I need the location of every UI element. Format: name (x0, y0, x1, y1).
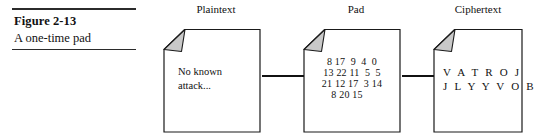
node-ciphertext-line-2: J L Y Y V O B (443, 80, 536, 94)
one-time-pad-diagram: Plaintext No known attack... Pad 8 17 9 … (0, 0, 539, 140)
node-pad-line-3: 21 12 17 3 14 (308, 78, 396, 90)
node-plaintext-line-2: attack... (178, 79, 211, 92)
node-pad-line-2: 13 22 11 5 5 (308, 67, 396, 79)
node-pad-label: Pad (298, 3, 414, 16)
document-page-icon (158, 20, 274, 138)
node-ciphertext-line-1: V A T R O J (443, 66, 521, 80)
node-pad-line-1: 8 17 9 4 0 (308, 56, 396, 68)
node-plaintext-line-1: No known (178, 65, 222, 78)
node-ciphertext: Ciphertext V A T R O J J L Y Y V O B (428, 3, 539, 135)
node-ciphertext-label: Ciphertext (428, 3, 528, 16)
node-pad-line-4: 8 20 15 (308, 89, 386, 101)
node-pad: Pad 8 17 9 4 0 13 22 11 5 5 21 12 17 3 1… (298, 3, 414, 135)
node-plaintext-label: Plaintext (158, 3, 274, 16)
node-plaintext: Plaintext No known attack... (158, 3, 274, 135)
